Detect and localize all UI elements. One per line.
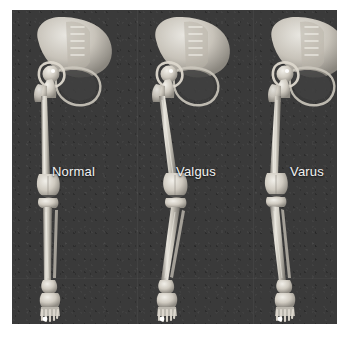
ankle-valgus: [158, 280, 174, 293]
radiograph-panel: Normal Valgus Varus: [12, 10, 337, 324]
fibula-normal: [53, 210, 58, 278]
hip-marker-normal: [51, 69, 55, 73]
hip-marker-valgus: [169, 69, 173, 73]
foot-valgus: [157, 293, 178, 321]
sacrum-valgus: [184, 21, 208, 70]
toe-marker-valgus: [160, 317, 165, 322]
label-varus: Varus: [290, 164, 324, 179]
tibial-plateau-valgus: [165, 198, 186, 208]
toe-marker-normal: [43, 317, 48, 322]
tibial-plateau-normal: [38, 198, 58, 208]
ankle-normal: [41, 280, 57, 293]
tibial-plateau-varus: [266, 197, 286, 207]
figure-root: Normal Valgus Varus: [0, 0, 349, 339]
femur-shaft-normal: [41, 96, 50, 176]
hip-marker-varus: [285, 69, 289, 73]
foot-normal: [40, 293, 61, 321]
femur-shaft-valgus: [159, 96, 177, 177]
foot-varus: [275, 293, 296, 321]
sacrum-varus: [300, 21, 324, 70]
ankle-varus: [276, 280, 292, 293]
sacrum-normal: [66, 21, 90, 70]
toe-marker-varus: [278, 317, 283, 322]
label-normal: Normal: [52, 164, 95, 179]
label-valgus: Valgus: [176, 164, 216, 179]
